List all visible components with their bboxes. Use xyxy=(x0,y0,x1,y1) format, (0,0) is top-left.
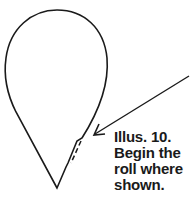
caption-line-4: shown. xyxy=(114,177,183,193)
caption-line-1: Illus. 10. xyxy=(114,129,183,145)
arrow xyxy=(94,76,189,135)
teardrop-outline xyxy=(5,10,107,188)
caption-line-3: roll where xyxy=(114,161,183,177)
arrow-shaft xyxy=(95,76,189,134)
caption-line-2: Begin the xyxy=(114,145,183,161)
caption: Illus. 10. Begin the roll where shown. xyxy=(114,129,183,193)
